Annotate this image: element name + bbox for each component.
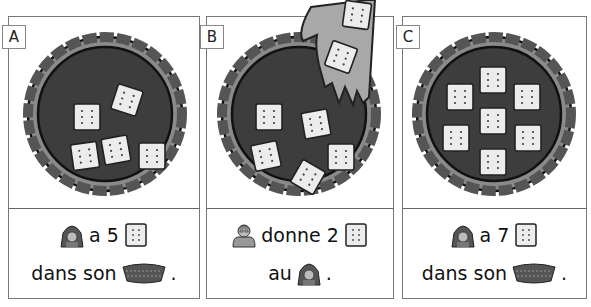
cracker-icon (124, 222, 148, 248)
scene-c (403, 17, 586, 209)
panel-label: B (200, 25, 224, 49)
cracker-icon (344, 222, 368, 248)
caption-text: dans son (31, 262, 116, 284)
scene-a (9, 17, 199, 209)
caption-b: donne 2 au . (207, 209, 393, 298)
period: . (171, 262, 177, 284)
red-riding-hood-icon (60, 222, 84, 248)
basket-with-crackers (9, 17, 199, 208)
caption-a: a 5 dans son . (9, 209, 199, 298)
grandmother-icon (232, 222, 256, 248)
panel-label: C (396, 25, 420, 49)
caption-text: a 5 (89, 224, 119, 246)
caption-text: au (268, 262, 292, 284)
basket-icon (122, 262, 166, 284)
caption-c: a 7 dans son . (403, 209, 586, 298)
basket-with-crackers (403, 17, 586, 208)
panel-label: A (2, 25, 26, 49)
red-riding-hood-icon (297, 260, 321, 286)
cracker-icon (74, 104, 100, 130)
period: . (326, 262, 332, 284)
basket-icon (512, 262, 556, 284)
caption-text: donne 2 (261, 224, 339, 246)
panel-c: C a 7 dans son . (402, 16, 587, 299)
caption-text: a 7 (480, 224, 510, 246)
panel-b: B donne 2 au . (206, 16, 394, 299)
cracker-icon (514, 222, 538, 248)
panel-a: A a 5 dans son . (8, 16, 200, 299)
red-riding-hood-icon (451, 222, 475, 248)
caption-text: dans son (422, 262, 507, 284)
basket-with-crackers (207, 17, 393, 208)
scene-b (207, 17, 393, 209)
period: . (561, 262, 567, 284)
